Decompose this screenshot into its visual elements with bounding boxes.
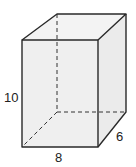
- height-label: 10: [4, 90, 18, 105]
- width-label: 8: [55, 150, 62, 165]
- prism-figure: 10 8 6: [0, 0, 136, 167]
- prism-diagram: 10 8 6: [0, 0, 136, 167]
- front-face: [22, 40, 98, 147]
- depth-label: 6: [116, 129, 123, 144]
